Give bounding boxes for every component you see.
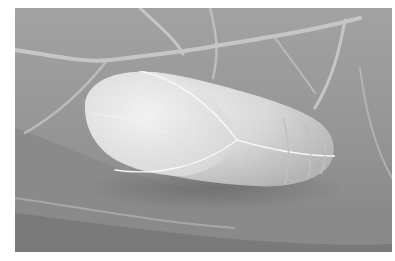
pupa-on-leaf-illustration [15, 8, 392, 252]
photo: Grayscale close-up photograph of a pale … [15, 8, 392, 252]
